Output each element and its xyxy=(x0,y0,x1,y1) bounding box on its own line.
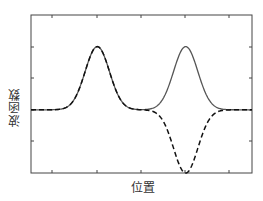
y-axis-label: 波函数 xyxy=(6,88,23,127)
plot-frame xyxy=(31,15,252,173)
x-axis-label: 位置 xyxy=(131,178,155,195)
wavefunction-chart xyxy=(0,0,263,201)
axis-ticks xyxy=(31,15,252,173)
solid-wave-curve xyxy=(31,47,252,110)
dashed-wave-curve xyxy=(31,47,252,173)
